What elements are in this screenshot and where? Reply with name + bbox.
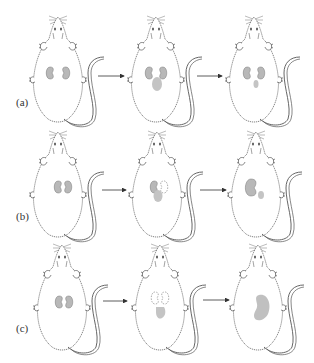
rat-b1	[29, 131, 104, 242]
rat-b2	[128, 131, 203, 242]
rat-c1	[33, 244, 108, 355]
left-kidney	[46, 67, 53, 79]
rat-a1	[29, 16, 104, 127]
rat-b3	[227, 131, 302, 242]
rat-a3	[225, 16, 300, 127]
rat-c2	[131, 244, 206, 355]
right-kidney	[63, 67, 70, 79]
diagram-canvas	[0, 0, 314, 363]
rat-a2	[127, 16, 202, 127]
rat-c3	[229, 244, 304, 355]
enlarged-kidney	[245, 179, 256, 196]
growth	[152, 77, 162, 91]
small-remnant	[254, 80, 259, 88]
